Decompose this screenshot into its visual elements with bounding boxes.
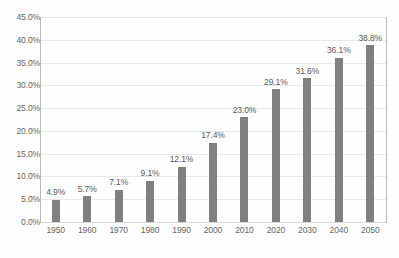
x-axis-tick-label: 2020 (260, 226, 291, 235)
bar[interactable] (52, 200, 60, 222)
bar-slot: 17.4% (197, 17, 228, 222)
bar-data-label: 36.1% (327, 46, 351, 55)
bar[interactable] (178, 167, 186, 222)
bar-slot: 4.9% (40, 17, 71, 222)
plot-right-border (386, 17, 387, 223)
y-axis-tick-label: 35.0% (4, 58, 40, 67)
plot-area: 4.9%5.7%7.1%9.1%12.1%17.4%23.0%29.1%31.6… (40, 17, 386, 222)
y-axis-tick-label: 45.0% (4, 13, 40, 22)
bar-slot: 9.1% (134, 17, 165, 222)
x-axis-tick-label: 1980 (134, 226, 165, 235)
x-axis-tick-label: 2010 (229, 226, 260, 235)
y-axis-tick-label: 10.0% (4, 172, 40, 181)
bar[interactable] (366, 45, 374, 222)
y-axis-tick-label: 15.0% (4, 149, 40, 158)
bar-chart: 0.0%5.0%10.0%15.0%20.0%25.0%30.0%35.0%40… (0, 0, 399, 258)
bar-slot: 36.1% (323, 17, 354, 222)
y-axis: 0.0%5.0%10.0%15.0%20.0%25.0%30.0%35.0%40… (0, 0, 40, 258)
y-axis-tick-label: 5.0% (4, 195, 40, 204)
bar[interactable] (272, 89, 280, 222)
bar[interactable] (303, 78, 311, 222)
bar-data-label: 4.9% (46, 188, 65, 197)
bar-slot: 29.1% (260, 17, 291, 222)
bar-slot: 7.1% (103, 17, 134, 222)
x-axis-tick-label: 2050 (355, 226, 386, 235)
x-axis-tick-label: 1950 (40, 226, 71, 235)
bar[interactable] (209, 143, 217, 222)
bar-slot: 5.7% (71, 17, 102, 222)
y-axis-line (40, 17, 41, 223)
gridline (40, 222, 386, 223)
x-axis-tick-label: 1970 (103, 226, 134, 235)
y-axis-tick-label: 30.0% (4, 81, 40, 90)
bar-data-label: 29.1% (264, 78, 288, 87)
bar-slot: 31.6% (292, 17, 323, 222)
bar[interactable] (146, 181, 154, 222)
bar-data-label: 5.7% (78, 185, 97, 194)
bar-data-label: 7.1% (109, 178, 128, 187)
bar-data-label: 12.1% (170, 155, 194, 164)
bar-data-label: 9.1% (141, 169, 160, 178)
bar[interactable] (240, 117, 248, 222)
bar-data-label: 38.8% (358, 34, 382, 43)
bar-slot: 23.0% (229, 17, 260, 222)
x-axis-tick-label: 1990 (166, 226, 197, 235)
y-axis-tick-label: 25.0% (4, 104, 40, 113)
bar[interactable] (83, 196, 91, 222)
y-axis-tick-label: 20.0% (4, 127, 40, 136)
x-axis-tick-label: 2000 (197, 226, 228, 235)
y-axis-tick-label: 0.0% (4, 218, 40, 227)
bar-data-label: 17.4% (201, 131, 225, 140)
x-axis-tick-label: 2030 (292, 226, 323, 235)
bar[interactable] (115, 190, 123, 222)
x-axis-tick-label: 2040 (323, 226, 354, 235)
x-axis: 1950196019701980199020002010202020302040… (40, 226, 386, 246)
bar-slot: 12.1% (166, 17, 197, 222)
bar[interactable] (335, 58, 343, 222)
x-axis-tick-label: 1960 (71, 226, 102, 235)
bar-data-label: 23.0% (233, 106, 257, 115)
bar-slot: 38.8% (355, 17, 386, 222)
y-axis-tick-label: 40.0% (4, 36, 40, 45)
bar-data-label: 31.6% (296, 67, 320, 76)
